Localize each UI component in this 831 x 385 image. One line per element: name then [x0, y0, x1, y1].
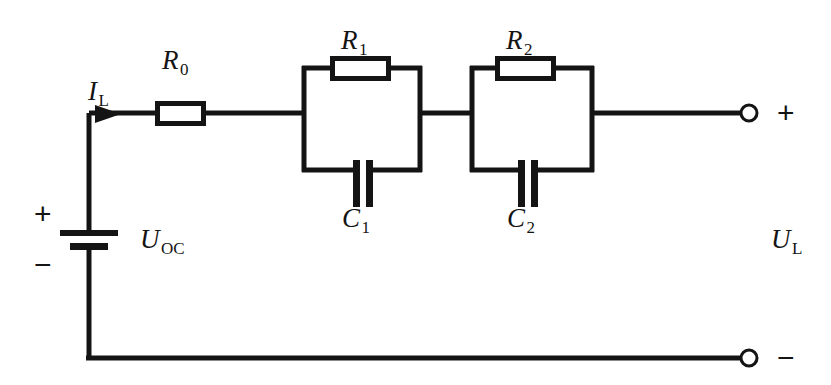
label-r2-subscript: 2: [524, 40, 533, 59]
label-load-voltage: UL: [771, 226, 802, 257]
source-plus-sign: +: [34, 199, 52, 229]
label-load-current-symbol: I: [88, 76, 98, 106]
terminal-plus-sign: +: [777, 98, 795, 128]
resistor-r0-body: [155, 101, 206, 126]
label-r0-subscript: 0: [180, 60, 189, 79]
label-c1-subscript: 1: [362, 218, 371, 237]
label-uoc-subscript: OC: [161, 239, 185, 258]
capacitor-c1-body: [353, 160, 373, 207]
label-uoc-symbol: U: [140, 224, 160, 254]
label-r1-symbol: R: [341, 25, 358, 55]
voltage-source-plates: [60, 230, 118, 250]
resistor-r1-body: [330, 56, 391, 81]
rc-branch-2-loop: [470, 66, 594, 172]
label-resistor-r1: R1: [341, 27, 368, 58]
label-load-current-subscript: L: [99, 91, 109, 110]
label-capacitor-c1: C1: [342, 205, 370, 236]
label-ul-subscript: L: [792, 239, 802, 258]
label-ul-symbol: U: [771, 224, 791, 254]
source-minus-sign: −: [34, 250, 52, 280]
label-r0-symbol: R: [162, 45, 179, 75]
rc-branch-1-loop: [302, 66, 422, 172]
label-c1-symbol: C: [342, 203, 361, 233]
label-open-circuit-voltage: UOC: [140, 226, 185, 257]
label-r2-symbol: R: [506, 25, 523, 55]
label-c2-subscript: 2: [527, 218, 536, 237]
terminal-minus-sign: −: [777, 343, 795, 373]
circuit-diagram: IL R0 R1 R2 C1 C2 UOC UL + − + −: [0, 0, 831, 385]
label-resistor-r0: R0: [162, 47, 189, 78]
capacitor-c2-body: [518, 160, 538, 207]
label-capacitor-c2: C2: [507, 205, 535, 236]
negative-terminal-node: [741, 350, 757, 366]
circuit-schematic-svg: [0, 0, 831, 385]
resistor-r2-body: [495, 56, 556, 81]
label-r1-subscript: 1: [359, 40, 368, 59]
positive-terminal-node: [741, 105, 757, 121]
label-load-current: IL: [88, 78, 109, 109]
label-c2-symbol: C: [507, 203, 526, 233]
label-resistor-r2: R2: [506, 27, 533, 58]
